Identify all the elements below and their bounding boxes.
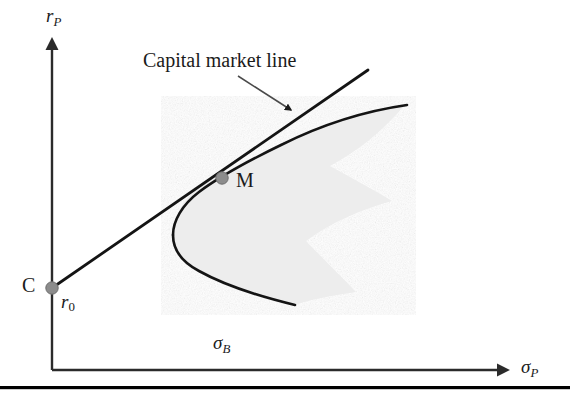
- bottom-horizontal-rule: [0, 386, 570, 389]
- capital-market-line-pointer-arrow: [238, 76, 291, 110]
- market-portfolio-label: M: [236, 170, 254, 190]
- y-axis-label-subscript: P: [53, 14, 61, 29]
- capital-market-line-caption: Capital market line: [143, 50, 296, 70]
- x-axis-label-subscript: P: [530, 365, 538, 380]
- figure-canvas: rP σP σB C r0 M Capital market line: [0, 0, 570, 399]
- market-portfolio-point-marker: [216, 172, 228, 184]
- y-axis-label: rP: [46, 6, 61, 29]
- sigma-b-label-subscript: B: [222, 341, 230, 356]
- x-axis-label: σP: [521, 357, 538, 380]
- risk-free-rate-label: r0: [61, 292, 75, 314]
- x-axis-label-text: σ: [521, 356, 530, 377]
- risk-free-rate-subscript: 0: [68, 299, 74, 314]
- risk-free-point-marker: [46, 282, 58, 294]
- bottom-rule-group: [0, 386, 570, 389]
- sigma-b-label: σB: [213, 333, 230, 356]
- sigma-b-label-text: σ: [213, 332, 222, 353]
- caption-leader-arrow-group: [238, 76, 291, 110]
- risk-free-point-label: C: [22, 275, 35, 295]
